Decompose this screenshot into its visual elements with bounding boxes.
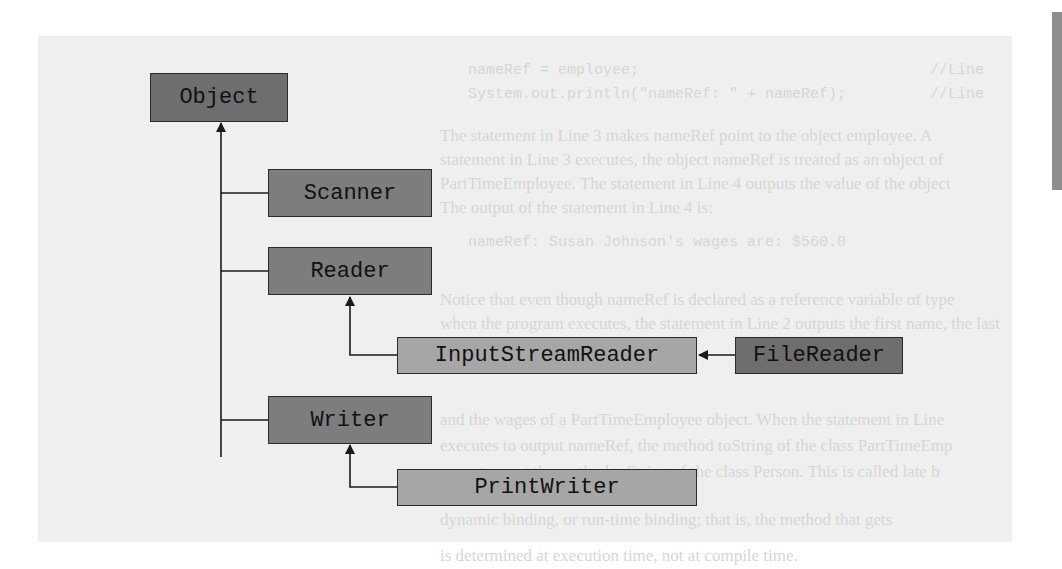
node-object: Object [150, 73, 288, 122]
node-reader: Reader [268, 247, 432, 295]
arrow-printwriter-to-writer [350, 445, 397, 487]
node-label: InputStreamReader [435, 343, 659, 368]
node-file-reader: FileReader [735, 337, 903, 374]
node-label: Scanner [304, 181, 396, 206]
node-label: Object [179, 85, 258, 110]
node-print-writer: PrintWriter [397, 469, 697, 506]
node-input-stream-reader: InputStreamReader [397, 337, 697, 374]
node-writer: Writer [268, 396, 432, 444]
node-label: FileReader [753, 343, 885, 368]
node-label: PrintWriter [474, 475, 619, 500]
node-label: Reader [310, 259, 389, 284]
node-scanner: Scanner [268, 169, 432, 217]
node-label: Writer [310, 408, 389, 433]
arrow-isr-to-reader [350, 297, 397, 355]
